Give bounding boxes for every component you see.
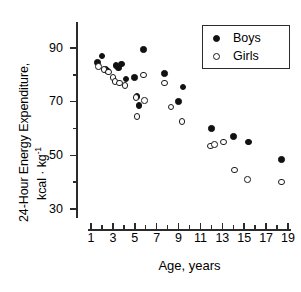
data-point-boys (208, 125, 215, 132)
data-point-boys (230, 133, 237, 140)
data-point-boys (123, 76, 130, 83)
legend-label-boys: Boys (233, 32, 261, 45)
data-point-girls (134, 113, 141, 120)
data-point-girls (122, 82, 129, 89)
data-point-girls (133, 94, 140, 101)
data-point-boys (118, 61, 125, 68)
data-point-girls (179, 118, 186, 125)
data-point-girls (168, 104, 175, 111)
chart-legend: Boys Girls (202, 25, 290, 69)
data-point-girls (278, 179, 285, 186)
open-circle-icon (213, 53, 220, 60)
data-point-boys (245, 139, 252, 146)
energy-expenditure-scatter-chart: 24-Hour Energy Expenditure, kcal · kg-1 … (0, 0, 301, 292)
data-point-girls (231, 167, 238, 174)
legend-entry-girls: Girls (203, 47, 291, 66)
data-point-boys (278, 156, 285, 163)
filled-circle-icon (213, 35, 220, 42)
data-point-girls (161, 80, 168, 87)
data-point-boys (180, 84, 187, 91)
x-axis-title: Age, years (88, 258, 291, 273)
data-point-boys (140, 46, 147, 53)
data-point-boys (99, 53, 106, 60)
data-point-girls (140, 72, 147, 79)
legend-entry-boys: Boys (203, 29, 291, 48)
data-point-boys (131, 74, 138, 81)
legend-label-girls: Girls (233, 50, 259, 63)
data-point-boys (161, 70, 168, 77)
data-point-girls (220, 139, 227, 146)
data-point-boys (175, 98, 182, 105)
data-point-girls (211, 141, 218, 148)
data-point-girls (244, 176, 251, 183)
data-point-girls (141, 97, 148, 104)
